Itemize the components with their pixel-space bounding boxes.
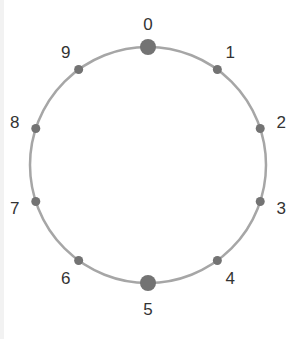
node-dot-5 xyxy=(140,275,156,291)
node-label-0: 0 xyxy=(143,15,152,34)
node-dot-3 xyxy=(256,197,265,206)
node-dot-1 xyxy=(213,65,222,74)
node-label-4: 4 xyxy=(226,269,235,288)
node-dot-8 xyxy=(31,124,40,133)
ring-circle xyxy=(30,47,266,283)
node-label-5: 5 xyxy=(143,300,152,319)
node-dot-6 xyxy=(74,256,83,265)
node-dot-0 xyxy=(140,39,156,55)
ring-diagram: 0123456789 xyxy=(0,0,291,339)
node-label-6: 6 xyxy=(61,269,70,288)
node-label-7: 7 xyxy=(10,199,19,218)
node-label-2: 2 xyxy=(276,113,285,132)
node-dot-2 xyxy=(256,124,265,133)
node-dot-4 xyxy=(213,256,222,265)
node-label-3: 3 xyxy=(276,199,285,218)
node-label-8: 8 xyxy=(10,113,19,132)
node-dot-7 xyxy=(31,197,40,206)
node-dot-9 xyxy=(74,65,83,74)
node-label-9: 9 xyxy=(61,43,70,62)
node-label-1: 1 xyxy=(226,43,235,62)
